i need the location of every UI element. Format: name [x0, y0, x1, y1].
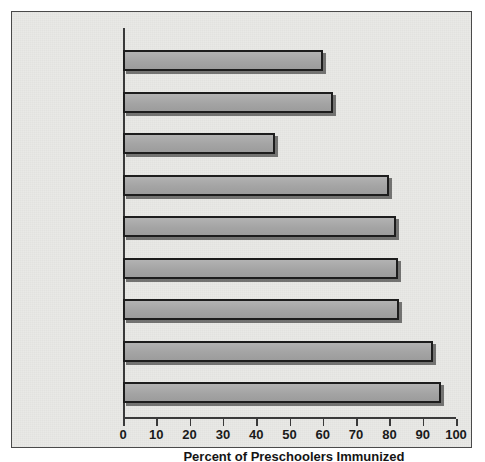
x-tick	[456, 419, 458, 426]
bar	[123, 175, 389, 196]
x-tick-label: 100	[445, 427, 467, 442]
x-tick	[423, 419, 425, 426]
x-tick-label: 70	[349, 427, 363, 442]
bar	[123, 382, 441, 403]
x-tick	[290, 419, 292, 426]
figure: United StatesU.S. WhiteU.S. NonwhiteWest…	[0, 0, 485, 462]
x-tick-label: 80	[382, 427, 396, 442]
bar	[123, 299, 399, 320]
x-tick	[223, 419, 225, 426]
bar	[123, 50, 323, 71]
x-tick	[156, 419, 158, 426]
x-tick	[356, 419, 358, 426]
x-tick-label: 10	[149, 427, 163, 442]
bar	[123, 258, 398, 279]
x-tick-label: 60	[316, 427, 330, 442]
x-tick-label: 40	[249, 427, 263, 442]
x-tick	[389, 419, 391, 426]
x-tick	[323, 419, 325, 426]
x-tick-label: 20	[182, 427, 196, 442]
bar	[123, 133, 275, 154]
x-tick-label: 50	[282, 427, 296, 442]
plot-area: United StatesU.S. WhiteU.S. NonwhiteWest…	[123, 28, 465, 412]
x-tick-label: 90	[415, 427, 429, 442]
chart-plate: United StatesU.S. WhiteU.S. NonwhiteWest…	[11, 11, 472, 448]
x-tick	[123, 419, 125, 426]
x-tick-label: 0	[119, 427, 126, 442]
x-tick	[256, 419, 258, 426]
x-tick	[190, 419, 192, 426]
bar	[123, 92, 333, 113]
x-tick-label: 30	[216, 427, 230, 442]
bar	[123, 216, 396, 237]
bar	[123, 341, 433, 362]
x-axis-title: Percent of Preschoolers Immunized	[123, 449, 465, 462]
